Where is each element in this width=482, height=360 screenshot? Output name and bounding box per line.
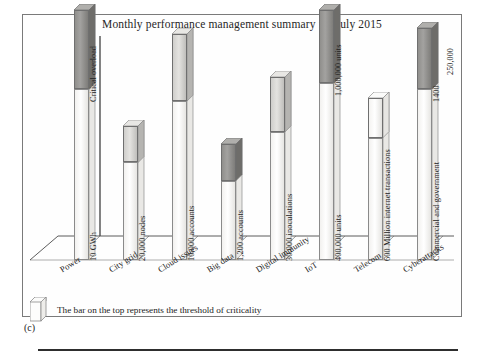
bar-value-label: 400,000 units [334, 215, 343, 261]
bar-body [368, 138, 383, 260]
bar-threshold-cap [221, 144, 236, 181]
chart-figure: Monthly performance management summary f… [0, 0, 482, 360]
legend-text: The bar on the top represents the thresh… [57, 305, 261, 315]
bar-value-label: 10 GWh [89, 232, 98, 261]
bar-threshold-cap [123, 126, 138, 163]
bar-threshold-cap [172, 34, 187, 101]
bar-value-label: 30,000 inoculations [285, 194, 294, 261]
threshold-bar-swatch [30, 297, 47, 322]
bottom-rule [38, 349, 458, 351]
bar-threshold-cap [319, 10, 334, 83]
bar-threshold-label: 1,000,000 units [334, 45, 343, 96]
bar-secondary-label: 250,000 [446, 48, 455, 75]
bar-threshold-label: Critical overload [89, 46, 98, 102]
bar-value-label: 1,200 accounts [236, 210, 245, 261]
bar-value-label: Commercial and government [432, 162, 441, 261]
bar-body [221, 181, 236, 260]
subfigure-caption: (c) [24, 322, 35, 333]
bar-threshold-cap [270, 77, 285, 132]
bar-threshold-cap [74, 10, 89, 89]
bar-side-face [89, 4, 96, 261]
legend: The bar on the top represents the thresh… [30, 297, 261, 322]
bar-value-label: 600 Million internet transactions [383, 149, 392, 261]
bar-threshold-cap [417, 28, 432, 89]
bar-power[interactable] [74, 4, 95, 260]
bar-value-label: 20,000 nodes [138, 216, 147, 261]
bar-body [172, 101, 187, 260]
floor-depth-edge [30, 236, 58, 260]
bar-threshold-label: 1400 [432, 86, 441, 103]
bar-threshold-cap [368, 98, 383, 138]
bar-body [74, 89, 89, 260]
bar-value-label: 10,000 accounts [187, 206, 196, 261]
bar-body [123, 162, 138, 260]
bar-body [270, 132, 285, 260]
bar-body [319, 83, 334, 260]
bar-body [417, 89, 432, 260]
